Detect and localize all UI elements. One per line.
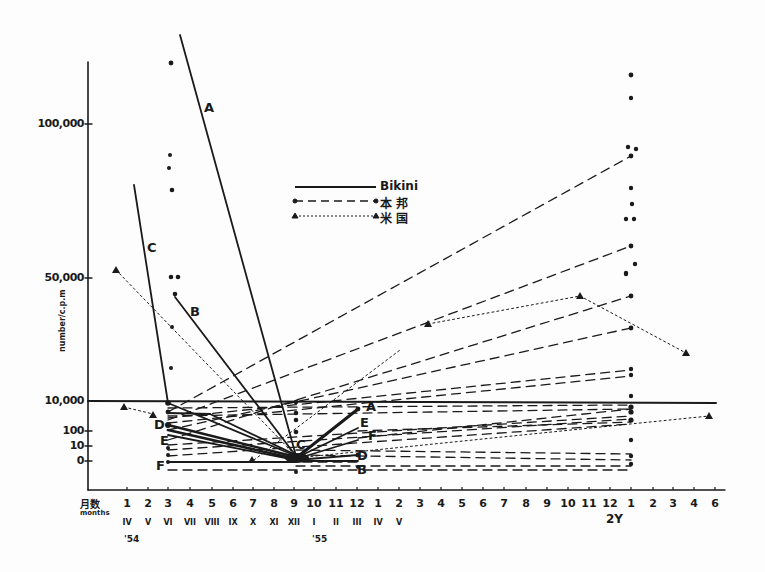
label-F-left: F — [156, 458, 165, 473]
x-roman-label: VII — [179, 518, 201, 527]
x-tick-label: 5 — [202, 497, 222, 510]
y-axis-label: number/c.p.m — [58, 289, 67, 352]
x-tick-label: 11 — [326, 497, 346, 510]
x-tick-label: 2 — [389, 497, 409, 510]
x-roman-label: XII — [283, 518, 305, 527]
series-bikini — [134, 35, 358, 462]
legend-lines — [292, 187, 379, 218]
label-F-right: F — [368, 428, 377, 443]
x-year-label: '54 — [124, 534, 139, 544]
x-tick-label: 6 — [473, 497, 493, 510]
x-roman-label: I — [303, 518, 325, 527]
y-tick-label: 10,000 — [32, 394, 84, 407]
label-B-right: B — [357, 462, 367, 477]
x-roman-label: X — [242, 518, 264, 527]
x-tick-label: 5 — [452, 497, 472, 510]
x-roman-label: V — [388, 518, 410, 527]
x-tick-label: 4 — [684, 497, 704, 510]
x-tick-label: 1 — [621, 497, 641, 510]
label-D-right: D — [357, 448, 368, 463]
x-tick-label: 9 — [537, 497, 557, 510]
x-tick-label: 12 — [347, 497, 367, 510]
x-tick-label: 6 — [705, 497, 725, 510]
x-roman-label: III — [346, 518, 368, 527]
label-A-left: A — [204, 100, 214, 115]
x-tick-label: 7 — [243, 497, 263, 510]
convergence-point — [285, 453, 309, 463]
x-tick-label: 4 — [431, 497, 451, 510]
label-C-left: C — [147, 240, 157, 255]
x-tick-label: 1 — [368, 497, 388, 510]
label-E-left: E — [160, 433, 169, 448]
label-A-right: A — [366, 399, 376, 414]
x-tick-label: 2 — [138, 497, 158, 510]
label-B-left: B — [190, 304, 200, 319]
label-D-left: D — [154, 417, 165, 432]
x-roman-label: IV — [367, 518, 389, 527]
label-C-center: C — [296, 437, 306, 452]
x-tick-label: 7 — [494, 497, 514, 510]
x-tick-label: 10 — [558, 497, 578, 510]
x-roman-label: V — [137, 518, 159, 527]
x-roman-label: IX — [222, 518, 244, 527]
x-tick-label: 8 — [264, 497, 284, 510]
x-year-label: '55 — [312, 534, 327, 544]
reference-line-10000 — [88, 401, 716, 403]
x-tick-label: 12 — [600, 497, 620, 510]
x-roman-label: IV — [116, 518, 138, 527]
series-usa — [116, 270, 709, 460]
legend-usa: 米 国 — [380, 209, 408, 226]
x-tick-label: 11 — [579, 497, 599, 510]
x-tick-label: 2 — [643, 497, 663, 510]
x-year-label: 2Y — [606, 512, 623, 526]
x-roman-label: XI — [263, 518, 285, 527]
x-tick-label: 8 — [516, 497, 536, 510]
x-tick-label: 3 — [663, 497, 683, 510]
x-axis-label-en: months — [80, 509, 110, 517]
x-tick-label: 1 — [117, 497, 137, 510]
y-tick-label: 50,000 — [32, 271, 84, 284]
x-axis-label: 月数 months — [80, 496, 110, 517]
y-tick-label: 100,000 — [32, 117, 84, 130]
x-roman-label: VI — [157, 518, 179, 527]
plot-area — [0, 0, 765, 572]
x-tick-label: 3 — [410, 497, 430, 510]
y-tick-label: 0 — [32, 454, 84, 467]
legend-bikini: Bikini — [380, 179, 418, 193]
x-tick-label: 6 — [223, 497, 243, 510]
x-tick-label: 9 — [284, 497, 304, 510]
y-tick-label: 10 — [32, 439, 84, 452]
x-roman-label: II — [325, 518, 347, 527]
x-tick-label: 3 — [158, 497, 178, 510]
chart: 100,00050,00010,000100100 number/c.p.m 1… — [0, 0, 765, 572]
y-tick-label: 100 — [32, 424, 84, 437]
x-tick-label: 10 — [304, 497, 324, 510]
x-roman-label: VIII — [201, 518, 223, 527]
x-tick-label: 4 — [180, 497, 200, 510]
